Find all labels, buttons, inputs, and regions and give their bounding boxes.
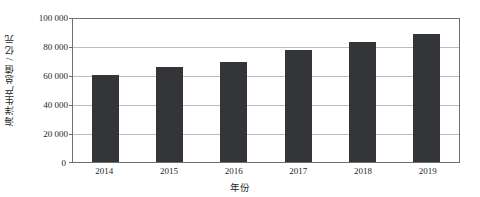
x-tick-label-2018: 2018	[331, 166, 396, 176]
bar-slot-2017	[266, 19, 330, 162]
bar-2016[interactable]	[220, 62, 247, 162]
plot-area	[72, 18, 460, 163]
y-tick-label-100000: 100 000	[22, 14, 68, 23]
bar-2015[interactable]	[156, 67, 183, 162]
y-tick-label-80000: 80 000	[22, 43, 68, 52]
tickmark-0	[69, 162, 73, 163]
x-tick-label-2014: 2014	[72, 166, 137, 176]
bar-2018[interactable]	[349, 42, 376, 162]
bar-slot-2018	[330, 19, 394, 162]
y-axis-title: 海洋生产总值 / 亿元	[0, 0, 20, 160]
x-tick-label-2016: 2016	[201, 166, 266, 176]
bar-group	[73, 19, 459, 162]
x-axis-tick-labels: 2014 2015 2016 2017 2018 2019	[72, 166, 460, 176]
bar-chart: 海洋生产总值 / 亿元 100 000 80 000 60 000 40 000…	[0, 0, 480, 197]
bar-2014[interactable]	[92, 75, 119, 162]
y-axis-title-text: 海洋生产总值 / 亿元	[3, 34, 17, 126]
bar-slot-2015	[137, 19, 201, 162]
bar-2017[interactable]	[285, 50, 312, 162]
y-tick-label-40000: 40 000	[22, 101, 68, 110]
x-tick-label-2015: 2015	[137, 166, 202, 176]
bar-slot-2016	[202, 19, 266, 162]
x-axis-title: 年份	[0, 180, 480, 194]
bar-slot-2019	[395, 19, 459, 162]
y-tick-label-0: 0	[52, 158, 66, 168]
x-tick-label-2019: 2019	[395, 166, 460, 176]
x-tick-label-2017: 2017	[266, 166, 331, 176]
y-tick-label-60000: 60 000	[22, 72, 68, 81]
bar-2019[interactable]	[413, 34, 440, 162]
y-tick-label-20000: 20 000	[22, 130, 68, 139]
bar-slot-2014	[73, 19, 137, 162]
